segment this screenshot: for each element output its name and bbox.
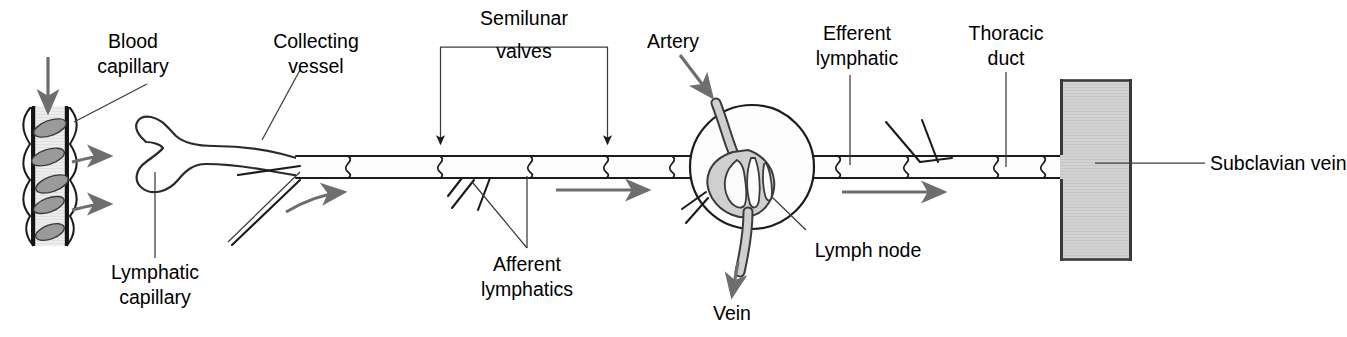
left-afferent-branches — [228, 166, 300, 245]
label-efferent-lymphatic-line1: Efferent — [823, 22, 892, 44]
collecting-vessel-leader — [262, 70, 300, 140]
vein-arrow — [732, 262, 738, 296]
label-collecting-vessel-line2: vessel — [288, 55, 343, 77]
blood-capillary-group — [23, 57, 110, 246]
lymphatic-capillary-group — [136, 117, 300, 192]
diagram-canvas: Blood capillary Lymphatic capillary Coll… — [0, 0, 1347, 337]
label-semilunar-valves-line1: Semilunar — [480, 7, 568, 29]
label-thoracic-duct-line2: duct — [988, 47, 1025, 69]
flow-arrow-curved — [286, 192, 344, 212]
label-subclavian-vein: Subclavian vein — [1210, 152, 1347, 174]
lymph-node-group — [682, 103, 814, 272]
blood-capillary-leader — [74, 84, 147, 122]
afferent-branch-thin — [228, 172, 300, 242]
label-thoracic-duct-line1: Thoracic — [969, 22, 1044, 44]
afferent-stub-a — [452, 180, 474, 208]
label-vein: Vein — [713, 302, 751, 324]
afferent-stub-b — [478, 178, 490, 210]
fluid-exit-arrow-lower — [72, 204, 110, 210]
fluid-exit-arrow-upper — [72, 156, 110, 162]
subclavian-vein-group — [1060, 79, 1132, 261]
artery-arrow — [680, 55, 712, 97]
collecting-vessel-group — [228, 120, 1062, 245]
node-sinus-loop-2 — [747, 158, 760, 207]
label-afferent-lymphatics-line1: Afferent — [493, 253, 562, 275]
capillary-flap-left — [23, 108, 32, 244]
label-artery: Artery — [647, 30, 699, 52]
label-semilunar-valves-line2: valves — [496, 40, 552, 62]
afferent-stub-a2 — [448, 178, 462, 196]
label-lymphatic-capillary-line2: capillary — [119, 286, 191, 308]
label-blood-capillary-line1: Blood — [108, 30, 158, 52]
lymphatic-diagram: Blood capillary Lymphatic capillary Coll… — [0, 0, 1347, 337]
node-afferent-stub2 — [686, 198, 708, 223]
label-lymph-node: Lymph node — [815, 239, 922, 261]
capillary-flap-right — [68, 108, 77, 244]
lymphatic-capillary-outline — [136, 117, 300, 192]
mid-afferent-lymphatics — [448, 178, 490, 210]
label-collecting-vessel-line1: Collecting — [273, 30, 359, 52]
label-blood-capillary-line2: capillary — [97, 55, 169, 77]
label-lymphatic-capillary-line1: Lymphatic — [111, 261, 199, 283]
subclavian-vein-body — [1060, 79, 1132, 261]
afferent-branch-lower — [232, 180, 300, 245]
afferent-leader-a — [473, 183, 527, 248]
label-efferent-lymphatic-line2: lymphatic — [816, 47, 899, 69]
label-afferent-lymphatics-line2: lymphatics — [481, 278, 573, 300]
